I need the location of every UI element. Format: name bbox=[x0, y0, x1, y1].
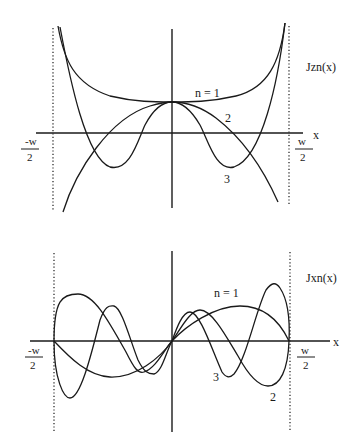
right-bound-label: w 2 bbox=[297, 344, 315, 371]
left-bound-label: -w 2 bbox=[25, 344, 43, 371]
diagram-canvas: Jzn(x) n = 1 2 3 x -w 2 w 2 Jxn(x) n = 1… bbox=[0, 0, 358, 447]
jxn-diagram: Jxn(x) n = 1 2 3 x -w 2 w 2 bbox=[25, 251, 339, 432]
left-bound-label: -w 2 bbox=[21, 135, 39, 163]
x-axis-label: x bbox=[333, 335, 339, 349]
left-bound-denominator: 2 bbox=[30, 359, 36, 371]
right-bound-numerator: w bbox=[298, 135, 306, 147]
curve-n2 bbox=[63, 102, 278, 212]
right-bound-denominator: 2 bbox=[303, 359, 309, 371]
left-bound-numerator: -w bbox=[25, 135, 37, 147]
right-bound-denominator: 2 bbox=[300, 151, 306, 163]
curve-label-n2: 2 bbox=[225, 111, 231, 125]
right-bound-numerator: w bbox=[301, 344, 309, 356]
jzn-diagram: Jzn(x) n = 1 2 3 x -w 2 w 2 bbox=[21, 23, 336, 212]
curve-label-n3: 3 bbox=[213, 370, 219, 384]
curve-label-n1: n = 1 bbox=[214, 286, 239, 300]
left-bound-denominator: 2 bbox=[27, 151, 33, 163]
left-bound-numerator: -w bbox=[28, 344, 40, 356]
x-axis-label: x bbox=[313, 128, 319, 142]
function-label: Jzn(x) bbox=[306, 60, 336, 74]
curve-label-n2: 2 bbox=[270, 390, 276, 404]
function-label: Jxn(x) bbox=[306, 271, 337, 285]
right-bound-label: w 2 bbox=[295, 135, 313, 163]
curve-label-n3: 3 bbox=[224, 172, 230, 186]
curve-label-n1: n = 1 bbox=[195, 86, 220, 100]
